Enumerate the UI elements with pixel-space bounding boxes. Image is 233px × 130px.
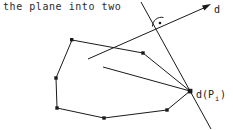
label-projection-subscript: i	[215, 95, 219, 103]
perpendicular-line	[141, 2, 211, 129]
label-projection-point: d(P i )	[196, 89, 226, 103]
geometry-figure: d d(P i )	[0, 0, 233, 130]
right-angle-marker-dot	[159, 22, 162, 25]
polygon-vertex	[54, 76, 57, 79]
polygon-vertex	[55, 106, 58, 109]
figure-page: the plane into two d d(P i	[0, 0, 233, 130]
polygon-vertices	[54, 38, 192, 120]
directed-line-d	[88, 7, 206, 59]
polygon-vertex	[70, 38, 73, 41]
label-projection-suffix: )	[220, 89, 226, 100]
polygon-vertex	[102, 116, 105, 119]
label-projection-prefix: d(P	[196, 89, 214, 100]
label-line-d: d	[214, 4, 220, 15]
interior-segment	[103, 67, 190, 91]
polygon-vertex	[165, 108, 168, 111]
convex-polygon-outline	[56, 40, 190, 118]
polygon-vertex	[141, 51, 144, 54]
arrow-head-icon	[202, 4, 211, 11]
